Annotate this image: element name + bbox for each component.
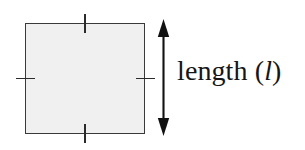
dimension-label-text: length (: [177, 55, 264, 86]
square-length-diagram: length (l): [0, 0, 305, 150]
tick-mark-top: [84, 14, 86, 33]
dimension-arrow-icon: [155, 18, 172, 137]
dimension-label: length (l): [177, 57, 281, 85]
tick-mark-right: [136, 78, 155, 80]
dimension-label-close: ): [272, 55, 281, 86]
square-shape: [25, 23, 145, 134]
tick-mark-left: [16, 78, 35, 80]
dimension-label-variable: l: [264, 55, 272, 86]
tick-mark-bottom: [84, 124, 86, 143]
